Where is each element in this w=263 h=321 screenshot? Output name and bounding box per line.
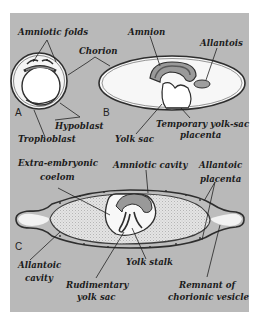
label-extra-embryonic-coelom-line1: Extra-embryonic <box>17 158 99 168</box>
stage-a-drawing <box>11 53 67 109</box>
label-yolk-sac: Yolk sac <box>115 134 155 144</box>
label-hypoblast: Hypoblast <box>54 121 104 131</box>
label-remnant-line1: Remnant of <box>178 280 236 290</box>
label-allantoic-cavity-line1: Allantoic <box>17 260 62 270</box>
label-remnant-line2: chorionic vesicle <box>168 292 250 302</box>
panel-letter-c: C <box>15 241 22 252</box>
label-chorion: Chorion <box>79 46 118 56</box>
label-amniotic-cavity: Amniotic cavity <box>112 160 188 170</box>
stage-b-drawing <box>99 56 245 110</box>
panel-letter-b: B <box>103 107 110 118</box>
embryo-diagram: A B C <box>0 0 263 321</box>
label-yolk-stalk: Yolk stalk <box>126 257 173 267</box>
label-rudimentary-yolk-sac-line2: yolk sac <box>76 292 116 302</box>
label-temporary-placenta-line2: placenta <box>180 130 221 140</box>
label-allantoic-placenta-line1: Allantoic <box>198 160 243 170</box>
stage-c-drawing <box>16 190 244 248</box>
label-rudimentary-yolk-sac-line1: Rudimentary <box>65 280 130 290</box>
label-extra-embryonic-coelom-line2: coelom <box>40 172 75 182</box>
label-trophoblast: Trophoblast <box>18 134 76 144</box>
label-amniotic-folds: Amniotic folds <box>17 27 88 37</box>
label-allantoic-placenta-line2: placenta <box>200 174 241 184</box>
panel-letter-a: A <box>15 107 22 118</box>
label-temporary-placenta-line1: Temporary yolk-sac <box>156 119 250 129</box>
label-allantoic-cavity-line2: cavity <box>25 273 54 283</box>
label-amnion: Amnion <box>127 27 165 37</box>
label-allantois: Allantois <box>199 38 243 48</box>
